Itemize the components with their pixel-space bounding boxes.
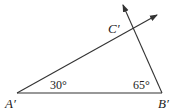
angle-a-label: 30°	[50, 78, 67, 92]
triangle-diagram: C′ 30° 65° A′ B′	[0, 0, 177, 111]
label-b-prime: B′	[158, 96, 169, 111]
label-c-prime: C′	[108, 21, 120, 36]
label-a-prime: A′	[4, 96, 16, 111]
angle-b-label: 65°	[133, 78, 150, 92]
